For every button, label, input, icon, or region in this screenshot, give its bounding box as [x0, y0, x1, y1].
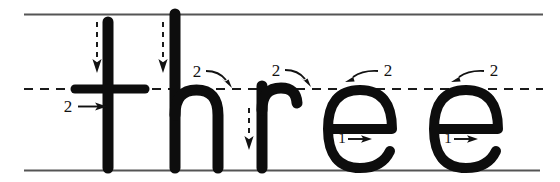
stroke-guide-h-2-arrowhead: [222, 79, 233, 89]
stroke-guide-r-2-shaft: [285, 70, 305, 79]
stroke-number-h-2: 2: [193, 62, 202, 81]
stroke-number-e-second-2: 2: [490, 61, 499, 80]
stroke-number-e-first-1: 1: [338, 130, 346, 146]
stroke-guide-r-1-arrowhead: [244, 136, 253, 150]
worksheet-canvas: 2 2: [0, 0, 560, 182]
stroke-guide-e-first-2: 2: [345, 61, 392, 82]
letter-r-shoulder: [262, 88, 297, 110]
letter-e-first: [328, 90, 392, 168]
stroke-guide-h-1: [158, 22, 167, 73]
handwriting-worksheet: Handwriting practice: three 2: [0, 0, 560, 182]
stroke-guide-t-1: [92, 22, 101, 73]
stroke-number-r-2: 2: [272, 61, 281, 80]
stroke-guide-h-2: 2: [193, 62, 232, 88]
stroke-guide-e-first-2-shaft: [353, 71, 378, 77]
stroke-guide-r-1: [244, 108, 253, 150]
letter-h-arch: [175, 90, 218, 168]
stroke-guide-h-2-shaft: [206, 71, 226, 80]
stroke-number-e-second-1: 1: [444, 130, 452, 146]
stroke-guide-r-2-arrowhead: [301, 78, 312, 88]
stroke-guide-t-2: 2: [64, 97, 107, 116]
letter-h: [175, 14, 218, 168]
letter-t: [75, 22, 145, 168]
stroke-number-e-first-2: 2: [384, 61, 393, 80]
stroke-guide-e-first-2-arrowhead: [345, 75, 357, 82]
stroke-guide-t-1-arrowhead: [92, 59, 101, 73]
stroke-number-t-2: 2: [64, 97, 73, 116]
letter-r: [262, 86, 297, 168]
letter-e-second: [434, 90, 498, 168]
stroke-guide-e-second-2: 2: [451, 61, 498, 82]
stroke-guide-h-1-arrowhead: [158, 59, 167, 73]
stroke-guide-e-second-2-shaft: [459, 71, 484, 77]
stroke-guide-e-second-2-arrowhead: [451, 75, 463, 82]
